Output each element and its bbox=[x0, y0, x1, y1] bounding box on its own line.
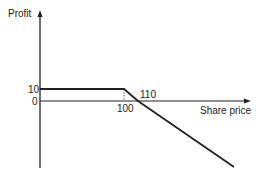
x-axis-arrow-icon bbox=[244, 99, 251, 104]
x-axis-label: Share price bbox=[200, 105, 252, 116]
y-tick-10: 10 bbox=[28, 84, 40, 95]
payoff-chart: Profit 10 0 100 110 Share price bbox=[0, 0, 269, 182]
x-tick-110: 110 bbox=[140, 89, 156, 100]
x-tick-100: 100 bbox=[117, 103, 134, 114]
y-axis-arrow-icon bbox=[38, 10, 43, 17]
y-axis-label: Profit bbox=[8, 8, 32, 19]
y-tick-0: 0 bbox=[32, 96, 38, 107]
